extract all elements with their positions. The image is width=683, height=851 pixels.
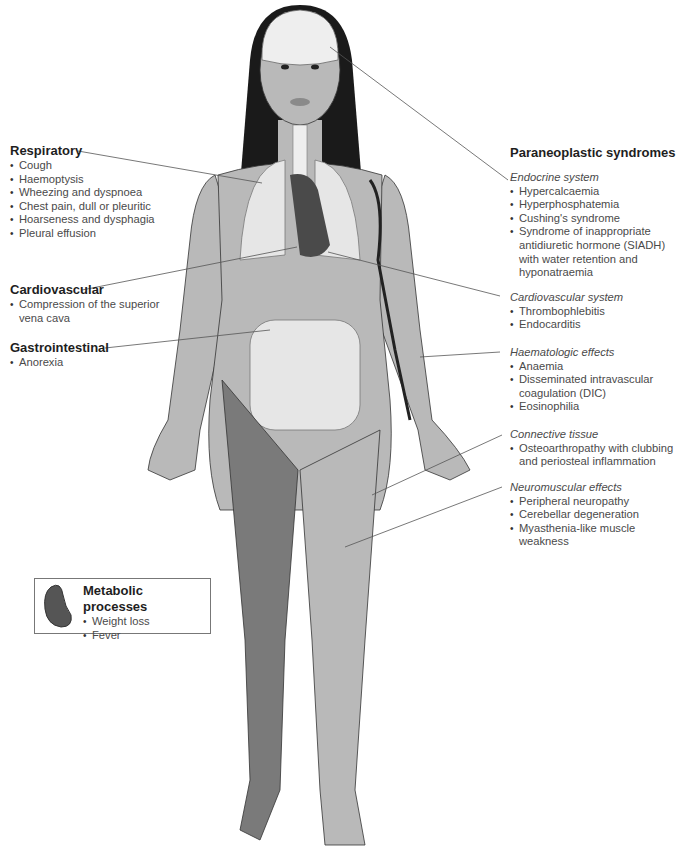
cardiovascular-list: Compression of the superior vena cava xyxy=(10,298,160,325)
paraneoplastic-block: Paraneoplastic syndromes Endocrine syste… xyxy=(510,145,680,280)
cardiovascular-system-heading: Cardiovascular system xyxy=(510,291,680,305)
respiratory-list: Cough Haemoptysis Wheezing and dyspnoea … xyxy=(10,159,155,241)
list-item: Cerebellar degeneration xyxy=(510,508,683,522)
gastrointestinal-list: Anorexia xyxy=(10,356,109,370)
list-item: Compression of the superior vena cava xyxy=(10,298,160,325)
list-item: Osteoarthropathy with clubbing and perio… xyxy=(510,442,682,469)
list-item: Anorexia xyxy=(10,356,109,370)
cardiovascular-heading: Cardiovascular xyxy=(10,282,160,298)
cardiovascular-system-list: Thrombophlebitis Endocarditis xyxy=(510,305,680,332)
intestines xyxy=(250,320,360,430)
connective-heading: Connective tissue xyxy=(510,428,682,442)
endocrine-list: Hypercalcaemia Hyperphosphatemia Cushing… xyxy=(510,185,680,280)
haematologic-heading: Haematologic effects xyxy=(510,346,680,360)
list-item: Haemoptysis xyxy=(10,173,155,187)
cardiovascular-system-block: Cardiovascular system Thrombophlebitis E… xyxy=(510,291,680,332)
metabolic-box: Metabolic processes Weight loss Fever xyxy=(34,578,211,634)
list-item: Wheezing and dyspnoea xyxy=(10,186,155,200)
haematologic-list: Anaemia Disseminated intravascular coagu… xyxy=(510,360,680,414)
cardiovascular-block: Cardiovascular Compression of the superi… xyxy=(10,282,160,325)
list-item: Fever xyxy=(83,629,210,643)
connective-list: Osteoarthropathy with clubbing and perio… xyxy=(510,442,682,469)
list-item: Hoarseness and dysphagia xyxy=(10,213,155,227)
connective-block: Connective tissue Osteoarthropathy with … xyxy=(510,428,682,469)
neuromuscular-block: Neuromuscular effects Peripheral neuropa… xyxy=(510,481,683,549)
list-item: Thrombophlebitis xyxy=(510,305,680,319)
neuromuscular-heading: Neuromuscular effects xyxy=(510,481,683,495)
respiratory-block: Respiratory Cough Haemoptysis Wheezing a… xyxy=(10,143,155,241)
list-item: Anaemia xyxy=(510,360,680,374)
list-item: Pleural effusion xyxy=(10,227,155,241)
gastrointestinal-block: Gastrointestinal Anorexia xyxy=(10,340,109,370)
list-item: Chest pain, dull or pleuritic xyxy=(10,200,155,214)
body-illustration xyxy=(0,0,683,851)
paraneoplastic-heading: Paraneoplastic syndromes xyxy=(510,145,680,161)
list-item: Peripheral neuropathy xyxy=(510,495,683,509)
left-leg xyxy=(300,430,380,845)
list-item: Weight loss xyxy=(83,615,210,629)
list-item: Disseminated intravascular coagulation (… xyxy=(510,373,680,400)
list-item: Eosinophilia xyxy=(510,400,680,414)
endocrine-heading: Endocrine system xyxy=(510,171,680,185)
list-item: Cough xyxy=(10,159,155,173)
kidney-bean-icon xyxy=(39,581,79,631)
neuromuscular-list: Peripheral neuropathy Cerebellar degener… xyxy=(510,495,683,549)
respiratory-heading: Respiratory xyxy=(10,143,155,159)
list-item: Myasthenia-like muscle weakness xyxy=(510,522,683,549)
list-item: Cushing's syndrome xyxy=(510,212,680,226)
list-item: Hypercalcaemia xyxy=(510,185,680,199)
list-item: Syndrome of inappropriate antidiuretic h… xyxy=(510,225,680,279)
list-item: Hyperphosphatemia xyxy=(510,198,680,212)
gastrointestinal-heading: Gastrointestinal xyxy=(10,340,109,356)
metabolic-list: Weight loss Fever xyxy=(83,615,210,642)
haematologic-block: Haematologic effects Anaemia Disseminate… xyxy=(510,346,680,414)
metabolic-heading: Metabolic processes xyxy=(83,583,210,615)
list-item: Endocarditis xyxy=(510,318,680,332)
